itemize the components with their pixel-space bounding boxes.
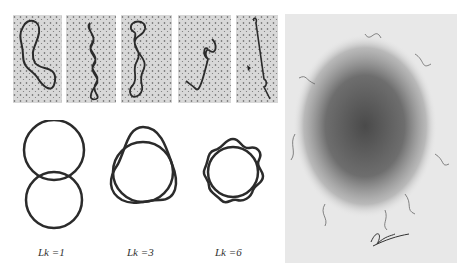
- micrograph-supercoil-1: [66, 15, 116, 103]
- micrograph-relaxed: [13, 15, 62, 103]
- micrograph-supercoil-2: [121, 15, 172, 103]
- micrograph-supercoil-4: [236, 15, 278, 103]
- lk3-diagram: [104, 120, 182, 230]
- chromosome-micrograph: [285, 14, 457, 263]
- lk1-diagram: [20, 120, 92, 230]
- micrograph-supercoil-3: [178, 15, 231, 103]
- lk1-label: Lk =1: [38, 246, 65, 258]
- cropped-caption-strip: [0, 0, 465, 8]
- lk6-label: Lk =6: [215, 246, 242, 258]
- lk3-label: Lk =3: [127, 246, 154, 258]
- lk6-diagram: [197, 120, 269, 230]
